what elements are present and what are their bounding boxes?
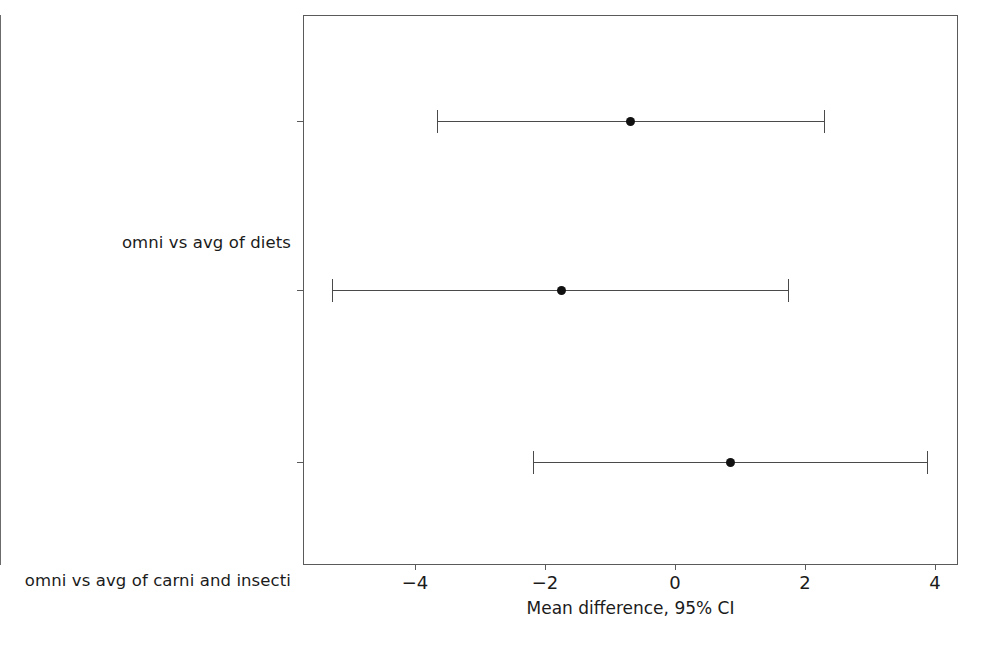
ci-mean-point bbox=[626, 117, 635, 126]
ci-cap-high bbox=[788, 279, 789, 302]
category-tick-1 bbox=[297, 290, 303, 291]
zero-reference-line bbox=[0, 15, 1, 565]
forest-plot: omni vs avg of diets omni vs avg of carn… bbox=[0, 0, 983, 646]
ci-cap-high bbox=[927, 451, 928, 474]
category-label-omni-vs-avg-of-diets: omni vs avg of diets bbox=[122, 233, 291, 252]
ci-cap-low bbox=[332, 279, 333, 302]
x-tick-label: 4 bbox=[929, 572, 940, 593]
x-tick-mark bbox=[675, 565, 676, 570]
x-tick-label: −2 bbox=[532, 572, 559, 593]
ci-mean-point bbox=[726, 458, 735, 467]
x-tick-label: 2 bbox=[799, 572, 810, 593]
category-tick-2 bbox=[297, 462, 303, 463]
ci-mean-point bbox=[557, 286, 566, 295]
category-tick-0 bbox=[297, 121, 303, 122]
x-axis-title: Mean difference, 95% CI bbox=[303, 598, 958, 618]
x-tick-mark bbox=[935, 565, 936, 570]
x-tick-mark bbox=[805, 565, 806, 570]
x-tick-mark bbox=[415, 565, 416, 570]
ci-cap-low bbox=[533, 451, 534, 474]
ci-cap-low bbox=[437, 110, 438, 133]
x-tick-label: 0 bbox=[669, 572, 680, 593]
x-tick-mark bbox=[545, 565, 546, 570]
category-label-omni-vs-avg-of-carni-and-insecti: omni vs avg of carni and insecti bbox=[25, 571, 291, 590]
x-tick-label: −4 bbox=[402, 572, 429, 593]
ci-cap-high bbox=[824, 110, 825, 133]
